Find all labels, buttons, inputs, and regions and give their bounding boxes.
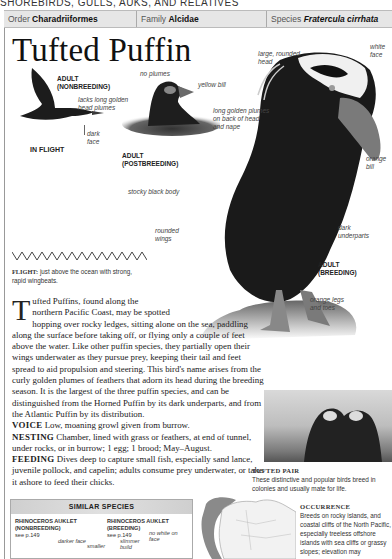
similar-species-box: SIMILAR SPECIES RHINOCEROS AUKLET (NONBR… [10, 499, 193, 559]
drop-cap: T [12, 298, 30, 322]
flight-description: FLIGHT: just above the ocean with strong… [12, 267, 142, 285]
page-left-border [4, 28, 5, 559]
note-smaller: smaller [87, 543, 105, 549]
flight-text-1: just above the ocean with strong, [40, 268, 132, 275]
flight-pattern-icon [12, 250, 147, 262]
taxonomy-order: Order Charadriiformes [4, 11, 137, 27]
flight-text-2: rapid wingbeats. [12, 277, 58, 284]
tufted-pair-photo [264, 390, 392, 462]
note-darker-face: darker face [58, 538, 86, 544]
order-value: Charadriiformes [32, 14, 98, 24]
description-line-1: ufted Puffins, found along the [32, 296, 138, 306]
nesting-label: NESTING [12, 432, 54, 442]
taxonomy-species: Species Fratercula cirrhata [267, 11, 392, 27]
taxonomy-family: Family Alcidae [137, 11, 267, 27]
similar-species-name: RHINOCEROS AUKLET [107, 518, 169, 524]
voice-text: Low, moaning growl given from burrow. [45, 420, 190, 430]
family-label: Family [141, 14, 166, 24]
feeding-label: FEEDING [12, 454, 55, 464]
label-large-rounded-head: large, rounded head [258, 50, 300, 66]
similar-species-plumage: (NONBREEDING) [15, 525, 61, 531]
note-slimmer-build: slimmer build [120, 538, 144, 550]
label-no-plumes: no plumes [140, 70, 170, 78]
species-description: T ufted Puffins, found along the norther… [12, 296, 264, 488]
breeding-caption: ADULT (BREEDING) [318, 261, 357, 277]
species-value: Fratercula cirrhata [304, 14, 379, 24]
voice-label: VOICE [12, 420, 42, 430]
similar-species-item: RHINOCEROS AUKLET (NONBREEDING) see p.14… [15, 518, 77, 539]
label-orange-legs: orange legs and toes [310, 296, 344, 312]
label-dark-underparts: dark underparts [338, 224, 369, 240]
section-title: SHOREBIRDS, GULLS, AUKS, AND RELATIVES [0, 0, 392, 9]
leader-line [84, 125, 85, 135]
similar-species-header: SIMILAR SPECIES [11, 500, 192, 514]
species-label: Species [271, 14, 301, 24]
occurrence-section: OCCURRENCE Breeds on rocky islands, and … [300, 502, 392, 556]
description-body: hopping over rocky ledges, sitting alone… [12, 319, 264, 419]
similar-species-page-link[interactable]: see p.149 [15, 532, 40, 538]
family-value: Alcidae [168, 14, 198, 24]
label-golden-plumes: long golden plumes on back of head and n… [213, 107, 269, 131]
postbreeding-caption: ADULT (POSTBREEDING) [122, 152, 178, 168]
label-dark-face: dark face [87, 130, 100, 146]
label-rounded-wings: rounded wings [155, 227, 179, 243]
puffin-pair-image [264, 390, 392, 462]
label-stocky-body: stocky black body [128, 188, 179, 196]
photo-caption-title: TUFTED PAIR [252, 467, 299, 474]
page-title: Tufted Puffin [12, 32, 192, 69]
flight-caption-adult: ADULT (NONBREEDING) [57, 75, 110, 91]
label-white-face: white face [370, 43, 385, 59]
range-map [196, 490, 296, 559]
occurrence-title: OCCURRENCE [300, 503, 350, 510]
taxonomy-bar: Order Charadriiformes Family Alcidae Spe… [4, 10, 392, 28]
label-orange-bill: orange bill [366, 155, 386, 171]
order-label: Order [8, 14, 30, 24]
caption-in-flight: IN FLIGHT [30, 146, 64, 154]
puffin-breeding-illustration [180, 40, 392, 340]
similar-species-name: RHINOCEROS AUKLET [15, 518, 77, 524]
note-no-white-on-face: no white on face [149, 530, 179, 542]
flight-label: FLIGHT: [12, 268, 38, 275]
photo-caption: TUFTED PAIR These distinctive and popula… [252, 466, 392, 493]
similar-species-plumage: (BREEDING) [107, 525, 140, 531]
description-line-2: northern Pacific Coast, may be spotted [32, 307, 170, 317]
occurrence-text: Breeds on rocky islands, and coastal cli… [300, 512, 391, 555]
